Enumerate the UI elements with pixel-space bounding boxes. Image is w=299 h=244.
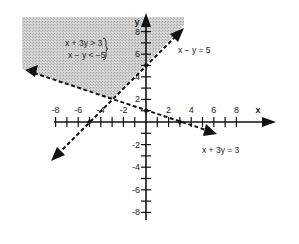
line-label-x-minus-y: x − y = 5 [178,45,211,55]
y-tick-label: -6 [132,185,140,195]
x-tick-label: 6 [211,105,216,115]
y-tick-label: 8 [135,27,140,37]
x-tick-label: -8 [52,105,60,115]
x-axis-arrow-icon [262,117,276,127]
y-tick-label: -2 [132,140,140,150]
point-marker [144,109,148,113]
x-tick-label: 4 [189,105,194,115]
inequality-1: x + 3y > 3 [65,38,103,48]
arrowhead-icon [203,124,217,136]
x-tick-label: 8 [234,105,239,115]
x-tick-label: -2 [119,105,127,115]
inequality-graph: -8 -6 -4 -2 2 4 6 8 x [0,0,299,244]
y-axis-label: y [134,17,139,27]
point-marker [144,64,148,68]
y-tick-label: 6 [135,49,140,59]
inequality-2: x − y < −5 [68,50,106,60]
y-tick-label: -8 [132,207,140,217]
line-label-x-plus-3y: x + 3y = 3 [202,145,240,155]
x-axis-label: x [255,105,260,115]
point-marker [178,120,182,124]
y-tick-label: 2 [135,94,140,104]
x-tick-label: -6 [74,105,82,115]
point-marker [88,120,92,124]
y-tick-label: -4 [132,162,140,172]
x-tick-label: 2 [166,105,171,115]
